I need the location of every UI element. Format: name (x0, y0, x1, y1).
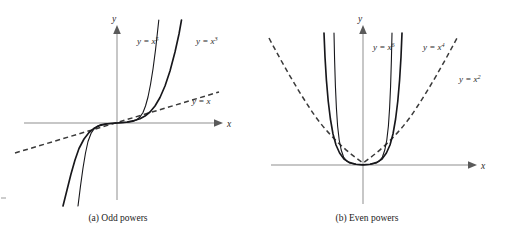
label-y-equals-x-3: y = x3 (195, 35, 218, 46)
panel-b-y-axis-arrowhead (359, 25, 367, 34)
panel-b-caption: (b) Even powers (336, 213, 399, 224)
panel-a-y-axis-label: y (111, 14, 117, 24)
power-functions-figure: y = x5 y = x3 y = x y x (a) Odd powers y… (0, 0, 505, 237)
panel-odd-powers: y = x5 y = x3 y = x y x (a) Odd powers (15, 14, 232, 224)
label-y-equals-x-5: y = x5 (136, 35, 159, 46)
label-y-equals-x-2: y = x2 (458, 73, 481, 84)
panel-a-x-axis-label: x (226, 119, 232, 129)
panel-b-x-axis-arrowhead (468, 161, 477, 169)
curve-y-equals-x-3 (63, 20, 182, 206)
panel-b-y-axis-label: y (357, 14, 363, 24)
panel-a-y-axis-arrowhead (113, 25, 121, 34)
panel-a-x-axis-arrowhead (214, 119, 223, 127)
panel-b-x-axis-label: x (480, 161, 486, 171)
panel-even-powers: y = x6 y = x4 y = x2 y x (b) Even powers (269, 14, 486, 224)
panel-a-caption: (a) Odd powers (88, 213, 147, 224)
label-y-equals-x: y = x (191, 96, 211, 106)
label-y-equals-x-4: y = x4 (422, 41, 445, 52)
